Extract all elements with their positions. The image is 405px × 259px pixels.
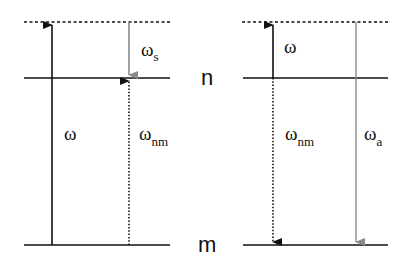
pump-label-right: ω <box>284 36 297 57</box>
antistokes-label: ωa <box>364 123 383 149</box>
stokes-label: ωs <box>141 39 159 64</box>
transition-label-left: ωnm <box>139 123 168 149</box>
energy-level-diagram: ω ωs ωnm n m ω ωnm ωa <box>0 0 405 259</box>
right-panel: ω ωnm ωa <box>242 22 388 245</box>
transition-label-right: ωnm <box>285 123 314 149</box>
level-n-label: n <box>201 65 213 90</box>
pump-label-left: ω <box>64 123 77 144</box>
level-m-label: m <box>198 232 216 257</box>
left-panel: ω ωs ωnm <box>24 22 170 245</box>
